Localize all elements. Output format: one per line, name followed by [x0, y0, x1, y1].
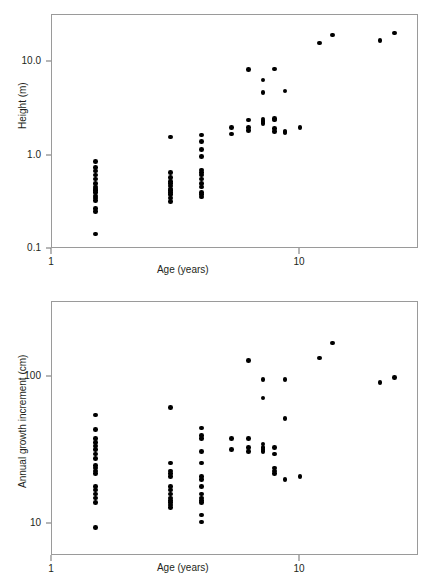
growth-y-tick-label-100: 100	[0, 371, 41, 381]
data-point	[168, 474, 173, 479]
data-point	[168, 170, 173, 175]
data-point	[283, 89, 288, 94]
data-point	[93, 159, 98, 164]
data-point	[272, 118, 277, 123]
height-y-tick-label-0-1: 0.1	[0, 243, 41, 253]
data-point	[261, 377, 266, 382]
data-point	[93, 525, 98, 530]
data-point	[261, 78, 266, 83]
data-point	[199, 449, 204, 454]
data-point	[93, 198, 98, 203]
data-point	[317, 41, 322, 46]
data-point	[93, 427, 98, 432]
data-point	[392, 375, 397, 380]
height-y-tick-label-1: 1.0	[0, 150, 41, 160]
data-point	[199, 139, 204, 144]
height-x-tick-label-1: 1	[48, 257, 54, 267]
data-point	[229, 436, 234, 441]
data-point	[168, 135, 173, 140]
growth-x-axis-title: Age (years)	[157, 562, 209, 573]
data-point	[261, 449, 266, 454]
data-point	[93, 500, 98, 505]
data-point	[283, 477, 288, 482]
data-point	[93, 456, 98, 461]
data-point	[93, 209, 98, 214]
data-point	[298, 474, 303, 479]
height-x-tick-label-10: 10	[293, 257, 304, 267]
height-chart-panel: Height (m) 10.0 1.0 0.1 1 10 Age (years)	[0, 0, 428, 291]
data-point	[246, 118, 251, 123]
data-point	[168, 461, 173, 466]
height-y-axis-title: Height (m)	[17, 82, 28, 129]
data-point	[199, 133, 204, 138]
data-point	[93, 232, 98, 237]
height-plot-area	[51, 14, 418, 248]
data-point	[199, 426, 204, 431]
data-point	[199, 195, 204, 200]
height-x-axis-title: Age (years)	[157, 264, 209, 275]
data-point	[298, 125, 303, 130]
data-point	[199, 185, 204, 190]
data-point	[246, 449, 251, 454]
growth-scatter-points	[52, 302, 417, 554]
data-point	[246, 358, 251, 363]
data-point	[378, 380, 383, 385]
data-point	[283, 416, 288, 421]
data-point	[168, 405, 173, 410]
height-scatter-points	[52, 15, 417, 247]
growth-plot-area	[51, 301, 418, 555]
height-y-tick-label-10: 10.0	[0, 56, 41, 66]
data-point	[272, 471, 277, 476]
data-point	[199, 513, 204, 518]
growth-chart-panel: Annual growth increment (cm) 100 10 1 10…	[0, 291, 428, 583]
data-point	[283, 377, 288, 382]
data-point	[199, 520, 204, 525]
figure-container: Height (m) 10.0 1.0 0.1 1 10 Age (years)…	[0, 0, 428, 583]
data-point	[261, 121, 266, 126]
data-point	[246, 67, 251, 72]
growth-x-tick-label-1: 1	[48, 564, 54, 574]
data-point	[199, 154, 204, 159]
data-point	[246, 128, 251, 133]
data-point	[93, 471, 98, 476]
data-point	[272, 67, 277, 72]
data-point	[199, 500, 204, 505]
data-point	[168, 505, 173, 510]
data-point	[229, 132, 234, 137]
data-point	[378, 38, 383, 43]
growth-x-tick-mark-1	[51, 555, 52, 561]
data-point	[272, 445, 277, 450]
height-x-tick-mark-1	[51, 248, 52, 254]
data-point	[93, 413, 98, 418]
data-point	[229, 125, 234, 130]
growth-x-tick-mark-10	[299, 555, 300, 561]
growth-x-tick-label-10: 10	[293, 564, 304, 574]
data-point	[317, 356, 322, 361]
data-point	[199, 436, 204, 441]
data-point	[199, 147, 204, 152]
data-point	[330, 341, 335, 346]
growth-y-tick-label-10: 10	[0, 518, 41, 528]
data-point	[229, 447, 234, 452]
data-point	[246, 436, 251, 441]
data-point	[283, 130, 288, 135]
data-point	[261, 396, 266, 401]
height-x-tick-mark-10	[299, 248, 300, 254]
data-point	[199, 461, 204, 466]
data-point	[272, 129, 277, 134]
data-point	[168, 199, 173, 204]
data-point	[261, 90, 266, 95]
data-point	[330, 33, 335, 38]
data-point	[199, 477, 204, 482]
data-point	[392, 31, 397, 36]
data-point	[272, 452, 277, 457]
data-point	[199, 484, 204, 489]
